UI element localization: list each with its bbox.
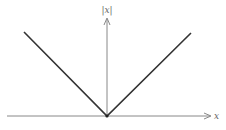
abs-value-chart: |x| x [0,0,226,130]
origin-point [105,114,108,117]
x-axis-label: x [214,111,219,121]
y-axis-label: |x| [101,5,112,16]
